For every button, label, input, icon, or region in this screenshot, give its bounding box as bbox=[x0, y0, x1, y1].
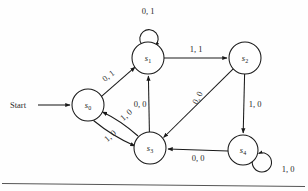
edge-s2-to-s4 bbox=[243, 74, 244, 133]
edge-s3-to-s1 bbox=[148, 76, 149, 132]
state-node-s4[interactable]: s4 bbox=[228, 135, 258, 165]
start-label: Start bbox=[10, 100, 27, 110]
edge-s4-to-s3 bbox=[168, 149, 228, 151]
edge-label-s3-to-s1: 0, 0 bbox=[134, 99, 147, 109]
edge-label-s2-to-s3: 0, 0 bbox=[190, 90, 205, 106]
edge-label-s0-to-s3: 1, 0 bbox=[102, 128, 118, 144]
page-baseline-rule bbox=[2, 184, 305, 187]
fsm-diagram: s0 s1 s2 s3 s4 Start 0, 1 0, 1 1, 1 0, 0… bbox=[0, 0, 308, 191]
edge-label-s4-to-s3: 0, 0 bbox=[192, 153, 205, 163]
state-node-s3[interactable]: s3 bbox=[134, 132, 166, 164]
edge-label-s1-to-s2: 1, 1 bbox=[190, 44, 203, 54]
edge-label-s2-to-s4: 1, 0 bbox=[249, 99, 262, 109]
state-node-s1[interactable]: s1 bbox=[132, 42, 164, 74]
edge-label-s1-self-loop: 0, 1 bbox=[142, 6, 155, 16]
state-node-s2[interactable]: s2 bbox=[229, 42, 261, 74]
edge-label-s3-to-s0: 1, 0 bbox=[118, 107, 134, 123]
edge-label-s0-to-s1: 0, 1 bbox=[100, 68, 116, 84]
edge-label-s4-self-loop: 1, 0 bbox=[282, 164, 295, 174]
state-node-s0[interactable]: s0 bbox=[72, 89, 104, 121]
state-diagram-canvas: s0 s1 s2 s3 s4 Start 0, 1 0, 1 1, 1 0, 0… bbox=[0, 0, 308, 191]
